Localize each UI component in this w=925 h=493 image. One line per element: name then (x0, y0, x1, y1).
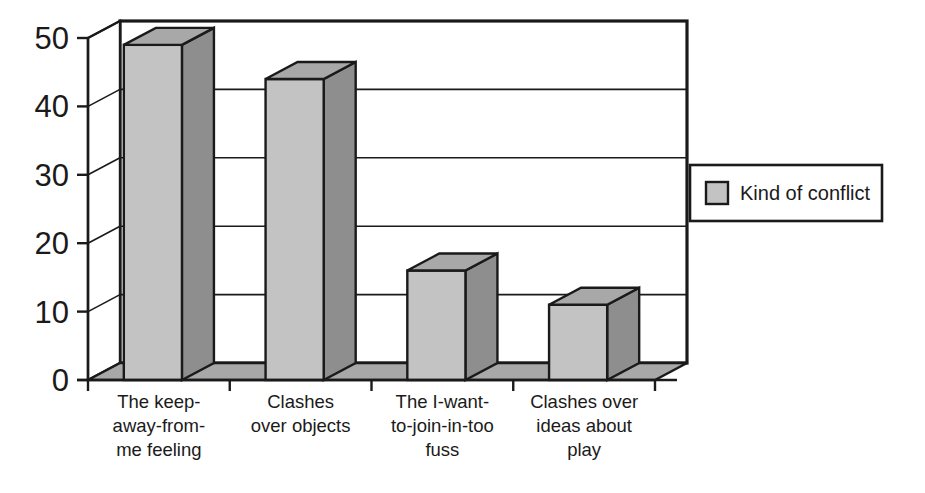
bar-front-face (124, 45, 182, 380)
chart-container: 01020304050The keep-away-from-me feeling… (0, 0, 925, 493)
x-axis-category-labels: The keep-away-from-me feelingClashesover… (113, 391, 638, 460)
category-label-line: Clashes (267, 391, 334, 412)
bar-side-face (465, 254, 497, 380)
category-label-line: me feeling (116, 439, 201, 460)
legend-label: Kind of conflict (740, 182, 871, 204)
category-label-line: away-from- (113, 415, 206, 436)
bar-column (549, 288, 639, 380)
bar-front-face (266, 79, 324, 380)
bar-front-face (407, 271, 465, 380)
bar-front-face (549, 305, 607, 380)
y-tick-label: 10 (35, 295, 69, 330)
y-tick-label: 50 (35, 21, 69, 56)
bar-side-face (324, 62, 356, 380)
category-label-line: ideas about (536, 415, 632, 436)
x-axis-ticks (88, 380, 655, 391)
y-tick-label: 40 (35, 89, 69, 124)
category-label-line: to-join-in-too (391, 415, 494, 436)
category-label-line: over objects (251, 415, 351, 436)
category-label-line: fuss (425, 439, 459, 460)
bar-column (124, 28, 214, 380)
category-label-line: The I-want- (396, 391, 490, 412)
category-label-line: play (567, 439, 602, 460)
bar-column (407, 254, 497, 380)
bar-chart-3d: 01020304050The keep-away-from-me feeling… (0, 0, 925, 493)
y-tick-label: 0 (52, 363, 69, 398)
bar-column (266, 62, 356, 380)
y-tick-label: 20 (35, 226, 69, 261)
bar-side-face (182, 28, 214, 380)
y-tick-label: 30 (35, 158, 69, 193)
legend-swatch (706, 182, 728, 204)
plot-left-wall (88, 21, 120, 380)
legend: Kind of conflict (690, 165, 882, 221)
category-label-line: Clashes over (530, 391, 638, 412)
y-axis-ticks: 01020304050 (35, 21, 88, 398)
category-label-line: The keep- (117, 391, 200, 412)
